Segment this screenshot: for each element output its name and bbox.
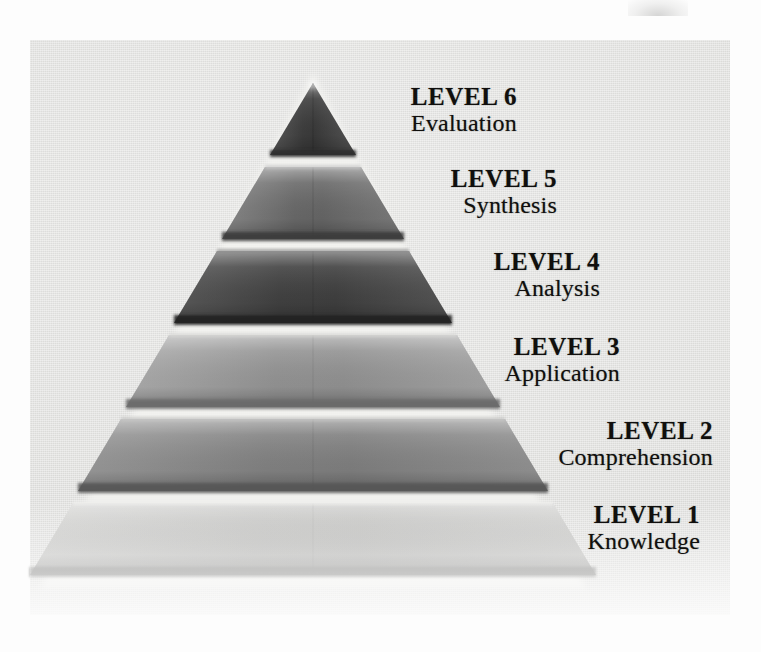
tier-6-level-text: LEVEL 6	[337, 84, 517, 110]
tier-1-level-text: LEVEL 1	[520, 502, 700, 528]
tier-5-level-text: LEVEL 5	[377, 166, 557, 192]
tier-label-level-5: LEVEL 5 Synthesis	[377, 166, 557, 217]
tier-label-level-3: LEVEL 3 Application	[440, 334, 620, 385]
tier-4-level-text: LEVEL 4	[420, 249, 600, 275]
tier-label-level-1: LEVEL 1 Knowledge	[520, 502, 700, 553]
tier-5-name-text: Synthesis	[377, 193, 557, 217]
tier-3-name-text: Application	[440, 361, 620, 385]
tier-1-name-text: Knowledge	[520, 529, 700, 553]
blooms-taxonomy-figure: LEVEL 6 Evaluation LEVEL 5 Synthesis LEV…	[0, 0, 761, 652]
tier-label-level-4: LEVEL 4 Analysis	[420, 249, 600, 300]
tier-4-name-text: Analysis	[420, 276, 600, 300]
tier-2-level-text: LEVEL 2	[493, 418, 713, 444]
tier-label-level-2: LEVEL 2 Comprehension	[493, 418, 713, 469]
tier-6-name-text: Evaluation	[337, 111, 517, 135]
tier-label-level-6: LEVEL 6 Evaluation	[337, 84, 517, 135]
tier-3-level-text: LEVEL 3	[440, 334, 620, 360]
tier-label-layer: LEVEL 6 Evaluation LEVEL 5 Synthesis LEV…	[0, 0, 761, 652]
tier-2-name-text: Comprehension	[493, 445, 713, 469]
